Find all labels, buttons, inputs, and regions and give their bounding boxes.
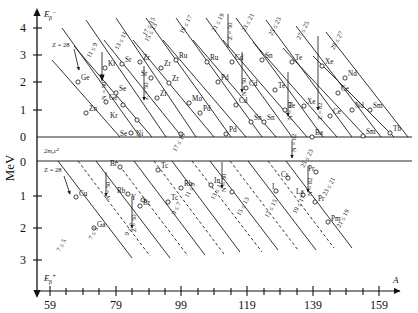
svg-text:Pr: Pr — [318, 195, 325, 203]
y-axis-title: MeV — [2, 154, 17, 181]
magic-label-n50-lower: N = 50 — [104, 181, 111, 200]
shell-label: 21 ≤ 19 — [210, 12, 225, 32]
svg-text:Ge: Ge — [109, 94, 117, 102]
y-tick-label: 1 — [20, 189, 26, 203]
svg-text:Zr: Zr — [172, 75, 179, 83]
lower-axis-title: E β + — [43, 273, 57, 285]
svg-text:Kr: Kr — [108, 60, 116, 68]
svg-text:Rb: Rb — [117, 187, 126, 195]
shell-label: 23 ≤ 21 — [321, 176, 336, 196]
shell-label: 17 ≤ 15 — [263, 198, 278, 218]
svg-text:Zn: Zn — [89, 105, 97, 113]
shell-label: 19 ≤ 17 — [291, 193, 307, 214]
magic-label-z28-upper: Z = 28 — [52, 41, 70, 48]
magic-label-z28-lower: Z = 28 — [44, 166, 62, 173]
svg-text:Sm: Sm — [373, 102, 383, 110]
svg-text:Nd: Nd — [348, 70, 357, 78]
magic-label-z50-upper: Z = 50 — [142, 82, 149, 100]
y-tick-label: 2 — [20, 75, 26, 89]
magic-label-z50-top: Z = 50 — [226, 22, 233, 40]
magic-label-z50-lower: Z = 50 — [130, 214, 137, 232]
svg-text:Sr: Sr — [125, 56, 132, 64]
x-tick-label: 159 — [370, 298, 388, 312]
svg-text:Ba: Ba — [315, 129, 324, 137]
gap-label: 2m₀c² — [44, 147, 59, 154]
y-tick-label: 3 — [20, 48, 26, 62]
svg-text:Ce: Ce — [341, 85, 349, 93]
svg-text:Ru: Ru — [179, 52, 188, 60]
svg-text:Te: Te — [278, 82, 285, 90]
magic-label-z82-upper: Z = 82 — [316, 102, 323, 120]
lower-axis-title-sup: + — [53, 273, 57, 279]
svg-text:Se: Se — [120, 130, 127, 138]
y-axis-arrow — [33, 8, 40, 16]
svg-text:Pr: Pr — [308, 165, 315, 173]
chart-svg: 4 3 2 1 0 0 1 2 3 MeV E β − E β + 2m₀c² — [0, 0, 418, 313]
x-ticks — [50, 286, 379, 296]
svg-text:Pd: Pd — [221, 74, 229, 82]
svg-text:Xe: Xe — [325, 58, 333, 66]
shell-label: 7 ≤ 5 — [55, 238, 67, 253]
svg-text:Mo: Mo — [192, 95, 202, 103]
magic-label-n50-upper: N = 50 — [100, 81, 107, 100]
svg-text:Nd: Nd — [355, 102, 364, 110]
svg-text:Sn: Sn — [267, 114, 275, 122]
x-tick-label: 139 — [304, 298, 322, 312]
beta-decay-energy-chart: 4 3 2 1 0 0 1 2 3 MeV E β − E β + 2m₀c² — [0, 0, 418, 313]
shell-label: 11 ≤ 9 — [85, 41, 99, 58]
x-axis-title: A — [392, 275, 399, 285]
svg-text:Sr: Sr — [141, 70, 148, 78]
x-tick-label: 59 — [44, 298, 56, 312]
shell-label: 27 ≤ 25 — [295, 20, 310, 40]
svg-text:Ru: Ru — [210, 54, 219, 62]
svg-text:Sm: Sm — [366, 128, 376, 136]
svg-text:Zr: Zr — [160, 90, 167, 98]
svg-text:Cd: Cd — [235, 54, 244, 62]
upper-axis-title-sup: − — [53, 9, 57, 15]
upper-axis-title: E β − — [43, 9, 57, 21]
svg-text:Pd: Pd — [229, 126, 237, 134]
svg-text:Ga: Ga — [97, 221, 106, 229]
svg-text:Ni: Ni — [136, 130, 143, 138]
magic-label-n50-mid: N = 50 — [240, 77, 247, 96]
svg-text:Zr: Zr — [143, 54, 150, 62]
svg-text:Te: Te — [295, 54, 302, 62]
y-tick-label: 2 — [20, 221, 26, 235]
shell-label: 9 ≤ 7 — [170, 200, 183, 216]
svg-text:Sn: Sn — [254, 114, 262, 122]
svg-text:Zr: Zr — [164, 60, 171, 68]
x-tick-label: 79 — [110, 298, 122, 312]
upper-axis-title-sub: β — [48, 15, 52, 21]
shell-label: 29 ≤ 27 — [329, 29, 345, 50]
x-tick-label: 99 — [175, 298, 187, 312]
svg-text:Sn: Sn — [265, 52, 273, 60]
svg-text:Xe: Xe — [307, 98, 315, 106]
svg-text:Br: Br — [143, 199, 151, 207]
magic-label-n82-upper: N = 82 — [286, 102, 293, 120]
svg-text:Pd: Pd — [203, 105, 211, 113]
shell-label: 25 ≤ 23 — [267, 16, 282, 36]
svg-text:Cs: Cs — [281, 171, 289, 179]
y-tick-label: 0 — [20, 155, 26, 169]
svg-text:Tc: Tc — [171, 194, 178, 202]
magic-label-n50-lower2: N = 50 — [220, 173, 227, 192]
svg-text:Br: Br — [110, 160, 118, 168]
svg-text:Cd: Cd — [239, 97, 248, 105]
svg-text:Cu: Cu — [79, 190, 88, 198]
svg-text:Se: Se — [119, 85, 126, 93]
shell-label: 23 ≤ 21 — [240, 12, 255, 32]
svg-text:Cd: Cd — [249, 80, 258, 88]
shell-label: 13 ≤ 11 — [113, 30, 128, 50]
x-tick-label: 119 — [238, 298, 256, 312]
y-tick-label: 3 — [20, 253, 26, 267]
y-tick-label: 1 — [20, 103, 26, 117]
svg-text:Tc: Tc — [161, 162, 168, 170]
shell-label: 15 ≤ 13 — [235, 196, 250, 216]
svg-text:Ce: Ce — [333, 108, 341, 116]
shell-annotations-upper: 11 ≤ 9 13 ≤ 11 15 ≤ 13 17 ≤ 15 19 ≤ 17 2… — [85, 12, 345, 58]
svg-text:Tb: Tb — [393, 125, 401, 133]
svg-text:Ge: Ge — [81, 74, 89, 82]
magic-label-n82-lower: N = 82 — [306, 178, 313, 196]
lower-axis-title-sub: β — [48, 279, 52, 285]
y-tick-label: 0 — [20, 130, 26, 144]
